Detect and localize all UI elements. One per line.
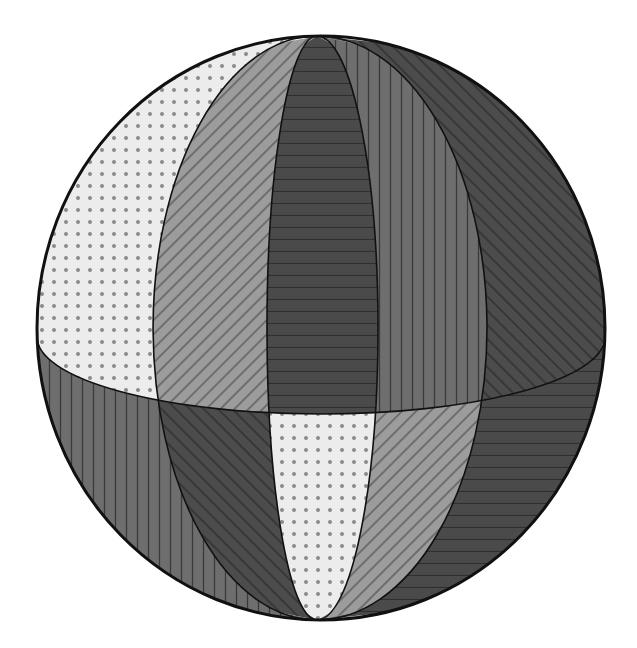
sphere-diagram: Sphere divided into ten patterned region…	[0, 0, 637, 648]
sphere-regions	[13, 36, 621, 620]
sphere-graphic	[0, 0, 637, 648]
